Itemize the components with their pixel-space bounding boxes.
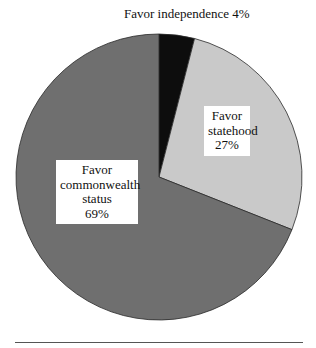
commonwealth-label-value: 69%: [60, 207, 134, 222]
commonwealth-label-line3: status: [60, 192, 134, 207]
commonwealth-label-line1: Favor: [60, 163, 134, 178]
statehood-label-value: 27%: [208, 138, 246, 153]
pie-chart: [0, 0, 316, 348]
statehood-label-line2: statehood: [208, 124, 246, 139]
statehood-label-line1: Favor: [208, 109, 246, 124]
independence-label: Favor independence 4%: [124, 6, 250, 22]
commonwealth-label: Favor commonwealth status 69%: [56, 160, 138, 224]
commonwealth-label-line2: commonwealth: [60, 178, 134, 193]
statehood-label: Favor statehood 27%: [204, 106, 250, 156]
baseline-rule: [15, 342, 303, 343]
